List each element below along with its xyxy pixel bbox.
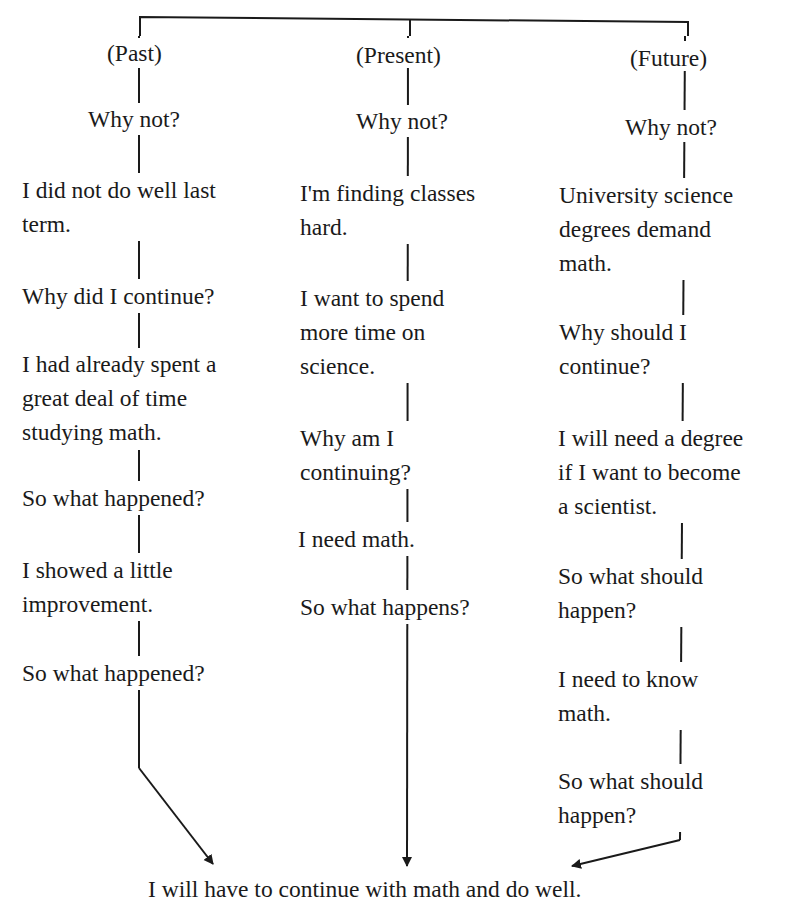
- past-node-why-not: Why not?: [88, 102, 180, 137]
- past-node-why-continue: Why did I continue?: [22, 279, 215, 314]
- past-node-improvement: I showed a little improvement.: [22, 553, 173, 621]
- present-node-why-not: Why not?: [356, 104, 448, 139]
- present-node-more-science: I want to spend more time on science.: [300, 281, 444, 383]
- past-node-so-what-happened-2: So what happened?: [22, 656, 205, 691]
- future-diagonal-arrow: [572, 840, 680, 866]
- past-node-not-do-well: I did not do well last term.: [22, 173, 216, 241]
- present-node-need-math: I need math.: [298, 522, 415, 557]
- present-node-classes-hard: I'm finding classes hard.: [300, 176, 475, 244]
- future-node-so-what-should-1: So what should happen?: [558, 559, 703, 627]
- future-node-degrees-demand-math: University science degrees demand math.: [559, 178, 733, 280]
- future-node-need-know-math: I need to know math.: [558, 662, 698, 730]
- present-node-so-what-happens: So what happens?: [300, 590, 470, 625]
- future-header: (Future): [630, 43, 707, 73]
- present-header: (Present): [356, 40, 441, 70]
- top-bracket-line: [140, 17, 688, 36]
- present-node-why-continuing: Why am I continuing?: [300, 421, 411, 489]
- future-node-why-not: Why not?: [625, 110, 717, 145]
- past-node-so-what-happened-1: So what happened?: [22, 481, 205, 516]
- past-node-spent-time: I had already spent a great deal of time…: [22, 347, 216, 449]
- future-node-so-what-should-2: So what should happen?: [558, 764, 703, 832]
- conclusion-text: I will have to continue with math and do…: [148, 872, 581, 907]
- past-diagonal-arrow: [139, 768, 213, 864]
- past-header: (Past): [107, 38, 162, 68]
- future-node-need-degree: I will need a degree if I want to become…: [558, 421, 743, 523]
- future-node-why-should-continue: Why should I continue?: [559, 315, 687, 383]
